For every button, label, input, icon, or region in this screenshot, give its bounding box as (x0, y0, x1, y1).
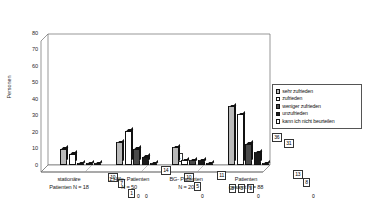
value-label-gesamt-4: 0 (312, 194, 315, 199)
y-tick-10: 10 (24, 146, 38, 152)
value-label-stationaere-3: 0 (137, 194, 140, 199)
bar-bg-zufrieden (181, 160, 188, 165)
plot-area: 10 7 1 0 0 14 21 10 5 0 11 3 3 3 0 (48, 34, 270, 165)
legend-swatch-unzufrieden (276, 112, 281, 117)
legend-label-zufrieden: zufrieden (282, 96, 302, 101)
bar-stationaere-weniger-zufrieden (77, 163, 84, 165)
y-tick-70: 70 (24, 47, 38, 53)
legend-swatch-sehr-zufrieden (276, 89, 281, 94)
bar-chart: 80 70 60 50 40 30 20 10 0 Personen 10 7 … (0, 0, 366, 209)
bar-bg-sehr-zufrieden (172, 147, 179, 165)
value-label-gesamt-2: 13 (293, 170, 303, 179)
legend-swatch-zufrieden (276, 97, 281, 102)
legend-item-weniger-zufrieden[interactable]: weniger zufrieden (276, 103, 360, 111)
value-label-gesamt-1: 31 (284, 139, 294, 148)
legend-swatch-weniger-zufrieden (276, 104, 281, 109)
legend-item-unzufrieden[interactable]: unzufrieden (276, 110, 360, 118)
y-tick-40: 40 (24, 97, 38, 103)
bar-stationaere-sehr-zufrieden (60, 149, 67, 165)
bar-group-erste-hilfe (116, 34, 160, 165)
bar-gesamt-weniger-zufrieden (245, 144, 252, 165)
legend-item-zufrieden[interactable]: zufrieden (276, 95, 360, 103)
bar-erste-hilfe-weniger-zufrieden (133, 149, 140, 165)
bar-stationaere-unzufrieden (86, 163, 93, 165)
legend-item-sehr-zufrieden[interactable]: sehr zufrieden (276, 88, 360, 96)
bar-bg-weniger-zufrieden (189, 160, 196, 165)
y-tick-30: 30 (24, 113, 38, 119)
legend: sehr zufrieden zufrieden weniger zufried… (272, 84, 362, 129)
value-label-gesamt-0: 36 (272, 133, 282, 142)
legend-swatch-kann-nicht-beurteilen (276, 119, 281, 124)
x-category-gesamt-line2: gesamt N = 88 (212, 184, 280, 192)
x-category-stationaere-line1: stationäre (38, 176, 100, 184)
legend-label-sehr-zufrieden: sehr zufrieden (282, 89, 313, 94)
y-tick-60: 60 (24, 64, 38, 70)
bar-group-stationaere (60, 34, 104, 165)
x-category-erste-hilfe-line2: N = 50 (98, 184, 160, 192)
bar-erste-hilfe-sehr-zufrieden (116, 142, 123, 165)
value-label-erste-hilfe-0: 14 (161, 166, 171, 175)
x-category-gesamt-line1: Patienten (212, 176, 280, 184)
y-tick-80: 80 (24, 31, 38, 37)
x-category-bg-line1: BG- Patienten (155, 176, 217, 184)
value-label-erste-hilfe-4: 0 (201, 194, 204, 199)
bar-group-bg (172, 34, 216, 165)
x-category-bg-line2: N = 20 (155, 184, 217, 192)
x-category-erste-hilfe: 1.Hilfe- Patienten N = 50 (98, 176, 160, 191)
bar-gesamt-sehr-zufrieden (228, 106, 235, 165)
bar-bg-kann-nicht (206, 163, 213, 165)
x-category-stationaere: stationäre Patienten N = 18 (38, 176, 100, 191)
bar-erste-hilfe-zufrieden (125, 131, 132, 165)
y-tick-50: 50 (24, 80, 38, 86)
legend-label-weniger-zufrieden: weniger zufrieden (282, 104, 320, 109)
y-tick-0: 0 (24, 163, 38, 169)
bar-gesamt-unzufrieden (254, 152, 261, 165)
value-label-bg-4: 0 (257, 194, 260, 199)
bar-erste-hilfe-kann-nicht (150, 163, 157, 165)
legend-label-unzufrieden: unzufrieden (282, 111, 307, 116)
bar-gesamt-zufrieden (237, 114, 244, 165)
x-category-bg: BG- Patienten N = 20 (155, 176, 217, 191)
bar-gesamt-kann-nicht (262, 163, 269, 165)
bar-bg-unzufrieden (198, 160, 205, 165)
bar-erste-hilfe-unzufrieden (142, 157, 149, 165)
legend-label-kann-nicht-beurteilen: kann ich nicht beurteilen (282, 119, 334, 124)
value-label-stationaere-4: 0 (145, 194, 148, 199)
y-tick-20: 20 (24, 130, 38, 136)
bar-group-gesamt (228, 34, 272, 165)
value-label-gesamt-3: 8 (303, 178, 310, 187)
bar-stationaere-kann-nicht (94, 163, 101, 165)
x-category-erste-hilfe-line1: 1.Hilfe- Patienten (98, 176, 160, 184)
x-category-gesamt: Patienten gesamt N = 88 (212, 176, 280, 191)
y-axis-label: Personen (6, 65, 12, 109)
legend-item-kann-nicht-beurteilen[interactable]: kann ich nicht beurteilen (276, 118, 360, 126)
bar-stationaere-zufrieden (69, 154, 76, 166)
x-category-stationaere-line2: Patienten N = 18 (38, 184, 100, 192)
